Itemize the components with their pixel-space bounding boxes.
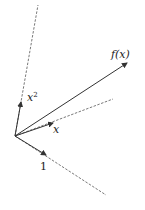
x2-vector <box>15 102 21 136</box>
fx-label: f(x) <box>110 48 130 61</box>
one-label: 1 <box>40 160 47 173</box>
vector-diagram: x2 f(x) x 1 <box>0 0 145 210</box>
x-vector <box>15 123 53 136</box>
one-vector <box>15 136 46 155</box>
x-label: x <box>53 123 60 136</box>
x2-label: x2 <box>27 91 38 104</box>
